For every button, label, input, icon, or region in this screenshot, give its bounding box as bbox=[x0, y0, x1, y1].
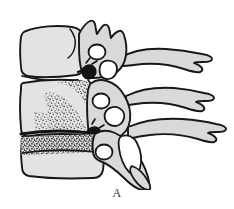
upper-vertebral-body bbox=[20, 26, 85, 77]
upper-transverse-process bbox=[120, 49, 212, 73]
cervical-spine-illustration bbox=[0, 0, 234, 190]
middle-inferior-articular-process bbox=[105, 107, 125, 126]
middle-transverse-process bbox=[126, 88, 214, 112]
lower-transverse-process bbox=[128, 119, 226, 143]
upper-vertebra bbox=[20, 21, 212, 79]
figure-label: A bbox=[0, 186, 234, 200]
upper-transverse-foramen bbox=[89, 45, 106, 60]
figure-container: A bbox=[0, 0, 234, 209]
spine-drawing bbox=[18, 21, 226, 190]
upper-inferior-articular-process bbox=[100, 61, 118, 79]
lower-transverse-foramen bbox=[96, 145, 113, 160]
middle-transverse-foramen bbox=[93, 94, 110, 109]
